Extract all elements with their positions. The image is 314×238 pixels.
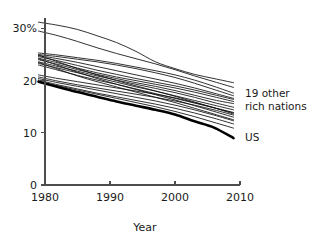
line-chart: 0102030%1980199020002010 Year 19 other r…: [0, 0, 314, 238]
series-line-nation-06: [39, 57, 234, 100]
x-tick-label-2010: 2010: [226, 191, 254, 204]
y-tick-label-20: 20: [23, 75, 37, 88]
x-axis-title: Year: [132, 221, 157, 234]
x-tick-label-2000: 2000: [161, 191, 189, 204]
series-line-nation-01: [39, 22, 234, 83]
chart-container: 0102030%1980199020002010 Year 19 other r…: [0, 0, 314, 238]
y-tick-label-30pct: 30%: [13, 22, 37, 35]
annotation-19-other-rich-nations-line1: 19 other: [245, 87, 290, 99]
series-layer: [39, 22, 234, 138]
annotation-us: US: [245, 131, 260, 143]
y-tick-label-10: 10: [23, 127, 37, 140]
x-tick-label-1990: 1990: [96, 191, 124, 204]
annotation-19-other-rich-nations-line2: rich nations: [245, 100, 307, 112]
x-tick-label-1980: 1980: [31, 191, 59, 204]
